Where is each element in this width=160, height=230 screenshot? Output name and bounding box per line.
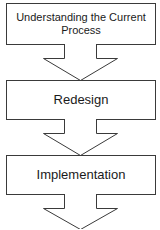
step-label-redesign: Redesign <box>6 80 156 120</box>
down-arrow-2 <box>44 120 118 156</box>
down-arrow-1 <box>44 45 118 81</box>
step-label-implementation: Implementation <box>6 155 156 195</box>
step-label-understanding: Understanding the Current Process <box>6 3 156 45</box>
down-arrow-3 <box>44 195 118 230</box>
